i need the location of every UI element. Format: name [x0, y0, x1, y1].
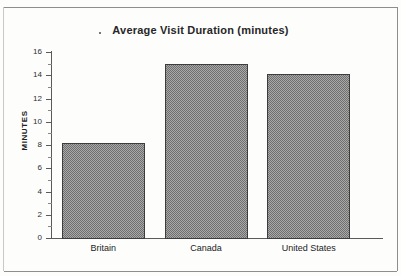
y-tick-minor: [48, 180, 52, 181]
y-tick-major: [46, 192, 52, 193]
y-tick-label: 14: [20, 71, 42, 79]
y-tick-minor: [48, 157, 52, 158]
y-tick-minor: [48, 87, 52, 88]
y-tick-label: 2: [20, 211, 42, 219]
y-tick-label: 4: [20, 188, 42, 196]
y-tick-major: [46, 122, 52, 123]
bar: [165, 64, 248, 239]
y-tick-minor: [48, 64, 52, 65]
y-tick-minor: [48, 110, 52, 111]
bar: [62, 143, 145, 239]
bar-chart: Average Visit Duration (minutes) MINUTES…: [0, 0, 401, 276]
y-tick-label: 12: [20, 95, 42, 103]
chart-title: Average Visit Duration (minutes): [0, 24, 401, 36]
y-tick-label: 8: [20, 141, 42, 149]
y-tick-major: [46, 52, 52, 53]
y-tick-major: [46, 99, 52, 100]
y-tick-minor: [48, 226, 52, 227]
y-tick-major: [46, 168, 52, 169]
y-tick-minor: [48, 203, 52, 204]
bar: [267, 74, 350, 239]
y-tick-minor: [48, 133, 52, 134]
y-tick-major: [46, 75, 52, 76]
y-tick-major: [46, 215, 52, 216]
y-tick-label: 6: [20, 164, 42, 172]
scanned-page: Average Visit Duration (minutes) MINUTES…: [0, 0, 401, 276]
y-axis-label: MINUTES: [20, 101, 29, 161]
y-tick-major: [46, 238, 52, 239]
y-tick-major: [46, 145, 52, 146]
y-tick-label: 16: [20, 48, 42, 56]
y-tick-label: 0: [20, 234, 42, 242]
y-tick-label: 10: [20, 118, 42, 126]
x-category-label: United States: [249, 243, 369, 253]
